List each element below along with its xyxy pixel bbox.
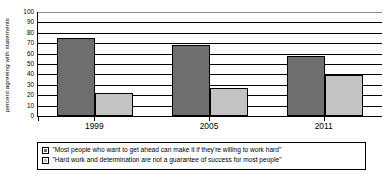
legend-item[interactable]: "Most people who want to get ahead can m… [42,146,361,156]
legend-item[interactable]: "Hard work and determination are not a g… [42,156,361,166]
plot-area [37,12,382,117]
x-axis-tick-mark [209,117,210,121]
y-axis-title: percent agreeing with statements [0,0,14,130]
bar-group [172,12,248,116]
bar-group [287,12,363,116]
y-axis-tick-label: 100 [23,9,34,15]
bar[interactable] [172,45,210,116]
y-axis-tick-label: 0 [30,113,34,119]
bar[interactable] [287,56,325,116]
y-axis-tick-labels: 0102030405060708090100 [14,12,36,117]
bars-layer [38,12,382,116]
y-axis-tick-label: 70 [27,40,34,46]
y-axis-tick-label: 10 [27,102,34,108]
legend-item-label: "Hard work and determination are not a g… [53,157,282,164]
y-axis-tick-label: 20 [27,92,34,98]
x-axis-tick-label: 2005 [200,122,219,130]
y-axis-tick-label: 30 [27,82,34,88]
bar[interactable] [325,75,363,116]
x-axis-tick-mark [94,117,95,121]
chart-legend: "Most people who want to get ahead can m… [37,142,366,170]
bar-chart-figure: percent agreeing with statements 0102030… [0,0,388,183]
x-axis-tick-mark [38,117,39,121]
y-axis-tick-label: 40 [27,71,34,77]
legend-swatch-dark-icon [42,147,49,154]
y-axis-title-text: percent agreeing with statements [4,18,10,112]
y-axis-tick-label: 60 [27,50,34,56]
legend-item-label: "Most people who want to get ahead can m… [53,147,282,154]
y-axis-tick-label: 50 [27,61,34,67]
x-axis-tick-label: 1999 [85,122,104,130]
x-axis-tick-label: 2011 [315,122,333,130]
x-axis-tick-labels: 199920052011 [37,122,382,136]
bar[interactable] [210,88,248,116]
bar[interactable] [57,38,95,116]
bar[interactable] [95,93,133,116]
x-axis-tick-mark [324,117,325,121]
y-axis-tick-label: 80 [27,30,34,36]
legend-swatch-light-icon [42,157,49,164]
y-axis-tick-label: 90 [27,19,34,25]
bar-group [57,12,133,116]
